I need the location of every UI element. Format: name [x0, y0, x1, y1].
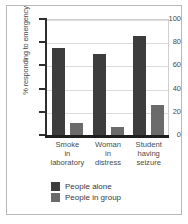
category-label: Smokeinlaboratory — [45, 140, 89, 168]
category-label-line: laboratory — [45, 158, 89, 167]
bar — [133, 36, 146, 135]
y-axis-tick — [39, 41, 47, 43]
y-axis-tick — [39, 64, 47, 66]
chart-frame: % responding to emergency 020406080100 S… — [6, 5, 182, 215]
y-axis-tick — [39, 18, 47, 20]
legend-swatch — [51, 193, 60, 202]
category-label-line: Smoke — [45, 140, 89, 149]
legend-item: People alone — [51, 182, 163, 191]
category-label-line: having — [127, 149, 171, 158]
bar-series-container — [47, 19, 169, 135]
bar — [70, 123, 83, 135]
bar — [52, 48, 65, 135]
legend-label: People in group — [65, 193, 121, 202]
chart-legend: People alonePeople in group — [51, 182, 163, 204]
category-label-line: Woman — [86, 140, 130, 149]
bar — [111, 127, 124, 135]
legend-swatch — [51, 182, 60, 191]
category-label: Studenthavingseizure — [127, 140, 171, 168]
category-label-line: seizure — [127, 158, 171, 167]
legend-label: People alone — [65, 182, 112, 191]
x-axis-category-labels: SmokeinlaboratoryWomanindistressStudenth… — [47, 140, 171, 180]
y-axis-title: % responding to emergency — [21, 0, 30, 107]
category-label-line: Student — [127, 140, 171, 149]
category-label: Womanindistress — [86, 140, 130, 168]
x-axis-line — [45, 135, 169, 138]
y-axis-tick — [39, 111, 47, 113]
y-axis-tick — [39, 88, 47, 90]
category-label-line: in — [45, 149, 89, 158]
bar — [151, 105, 164, 135]
bar — [93, 54, 106, 135]
bar-chart: % responding to emergency 020406080100 S… — [7, 6, 181, 214]
category-label-line: in — [86, 149, 130, 158]
category-label-line: distress — [86, 158, 130, 167]
legend-item: People in group — [51, 193, 163, 202]
